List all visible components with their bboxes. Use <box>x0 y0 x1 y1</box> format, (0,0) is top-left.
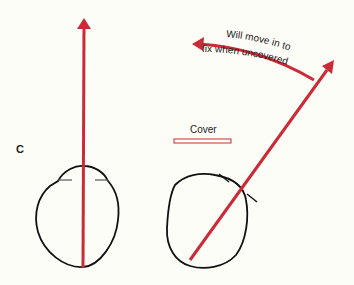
cover-label: Cover <box>190 124 217 135</box>
left-eye-outline <box>36 166 118 267</box>
arrow-head-icon <box>77 18 91 29</box>
cover-occluder <box>174 139 231 143</box>
cover-test-diagram: C Cover Will move in to fix when uncover… <box>0 0 354 285</box>
left-eye <box>36 166 118 267</box>
right-eye-lid-mark-lower <box>247 194 257 202</box>
right-gaze-arrow <box>190 60 334 260</box>
left-gaze-arrow <box>77 18 91 268</box>
right-eye-outline <box>167 174 247 268</box>
panel-label: C <box>16 143 24 155</box>
